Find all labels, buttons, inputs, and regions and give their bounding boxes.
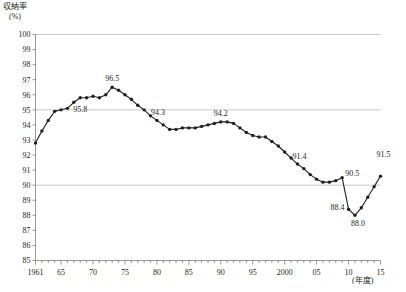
- svg-text:86: 86: [23, 241, 31, 250]
- svg-text:96.5: 96.5: [105, 74, 119, 83]
- svg-text:89: 89: [23, 196, 31, 205]
- svg-text:65: 65: [57, 268, 65, 277]
- svg-text:88: 88: [23, 211, 31, 220]
- svg-text:91: 91: [23, 166, 31, 175]
- svg-text:98: 98: [23, 60, 31, 69]
- svg-text:94: 94: [23, 121, 31, 130]
- plot-canvas: 100999897969594939291908988878685 196165…: [0, 0, 406, 292]
- svg-text:91.4: 91.4: [292, 152, 306, 161]
- y-axis-ticks: [33, 35, 36, 261]
- svg-text:90.5: 90.5: [345, 169, 359, 178]
- x-axis-ticks: [36, 261, 381, 265]
- svg-text:97: 97: [23, 76, 31, 85]
- svg-text:95.8: 95.8: [73, 105, 87, 114]
- svg-text:85: 85: [23, 256, 31, 265]
- svg-text:94.3: 94.3: [151, 108, 165, 117]
- svg-text:05: 05: [313, 268, 321, 277]
- gridlines: [36, 35, 381, 186]
- svg-text:94.2: 94.2: [214, 109, 228, 118]
- svg-text:91.5: 91.5: [377, 150, 391, 159]
- y-axis-tick-labels: 100999897969594939291908988878685: [19, 30, 31, 265]
- svg-text:93: 93: [23, 136, 31, 145]
- svg-text:90: 90: [217, 268, 225, 277]
- svg-text:87: 87: [23, 226, 31, 235]
- data-series-line: [36, 87, 381, 215]
- svg-text:85: 85: [185, 268, 193, 277]
- svg-text:88.0: 88.0: [351, 219, 365, 228]
- x-axis-tick-labels: 1961657075808590952000051015: [28, 268, 385, 277]
- svg-text:88.4: 88.4: [331, 203, 345, 212]
- svg-text:1961: 1961: [28, 268, 44, 277]
- svg-text:100: 100: [19, 30, 31, 39]
- svg-text:95: 95: [249, 268, 257, 277]
- svg-text:2000: 2000: [277, 268, 293, 277]
- svg-text:99: 99: [23, 45, 31, 54]
- collection-rate-line-chart: 収納率 (%) (年度) 100999897969594939291908988…: [0, 0, 406, 292]
- svg-text:75: 75: [121, 268, 129, 277]
- svg-text:15: 15: [377, 268, 385, 277]
- data-point-labels: 95.896.594.394.291.490.588.488.091.5: [73, 74, 390, 228]
- svg-text:95: 95: [23, 106, 31, 115]
- svg-text:70: 70: [89, 268, 97, 277]
- svg-text:10: 10: [345, 268, 353, 277]
- svg-text:96: 96: [23, 91, 31, 100]
- svg-text:90: 90: [23, 181, 31, 190]
- svg-text:80: 80: [153, 268, 161, 277]
- svg-text:92: 92: [23, 151, 31, 160]
